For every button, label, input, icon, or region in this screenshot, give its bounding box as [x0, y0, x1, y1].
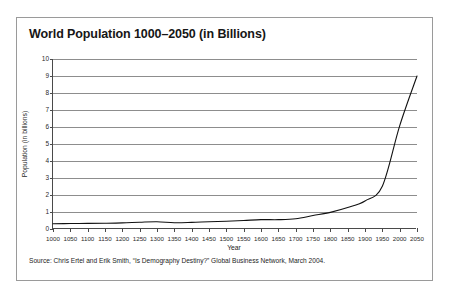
x-axis-title: Year [52, 244, 416, 251]
x-tick-label: 1650 [271, 236, 285, 242]
y-tick-label: 3 [45, 175, 49, 182]
x-tick-label: 1000 [46, 236, 60, 242]
x-tick-label: 1300 [150, 236, 164, 242]
y-tick-label: 7 [45, 107, 49, 114]
y-axis-title: Population (in billions) [21, 111, 28, 178]
page-edge-artifact [30, 294, 180, 299]
y-tick-label: 10 [42, 56, 49, 63]
x-tick-label: 1600 [254, 236, 268, 242]
figure-frame: World Population 1000–2050 (in Billions)… [16, 17, 433, 281]
x-tick-label: 1350 [167, 236, 181, 242]
x-tick-label: 1100 [81, 236, 94, 242]
y-tick-label: 2 [45, 192, 49, 199]
plot-area: 012345678910 100010501100115012001250130… [52, 59, 416, 229]
x-tick-label: 1050 [63, 236, 77, 242]
x-tick-label: 1950 [375, 236, 389, 242]
x-tick-label: 1250 [133, 236, 147, 242]
x-tick-label: 1500 [219, 236, 233, 242]
y-tick-label: 4 [45, 158, 49, 165]
page-title: World Population 1000–2050 (in Billions) [29, 27, 266, 41]
x-tick-label: 1200 [115, 236, 129, 242]
x-tick-label: 1400 [185, 236, 199, 242]
x-tick-label: 1800 [323, 236, 337, 242]
x-tick-label: 2050 [410, 236, 424, 242]
x-tick-label: 1850 [341, 236, 355, 242]
source-note: Source: Chris Ertel and Erik Smith, “Is … [29, 257, 325, 264]
y-tick-label: 6 [45, 124, 49, 131]
y-tick-label: 0 [45, 226, 49, 233]
x-tick-label: 1750 [306, 236, 320, 242]
population-curve [53, 59, 417, 229]
x-tick-label: 2000 [393, 236, 407, 242]
y-tick-label: 8 [45, 90, 49, 97]
y-tick-label: 5 [45, 141, 49, 148]
x-tick-label: 1150 [98, 236, 111, 242]
x-tick-label: 1900 [358, 236, 372, 242]
x-tick-mark [417, 228, 418, 232]
x-tick-label: 1700 [289, 236, 303, 242]
x-tick-label: 1450 [202, 236, 216, 242]
y-tick-label: 9 [45, 73, 49, 80]
x-tick-label: 1550 [237, 236, 251, 242]
y-tick-label: 1 [45, 209, 49, 216]
